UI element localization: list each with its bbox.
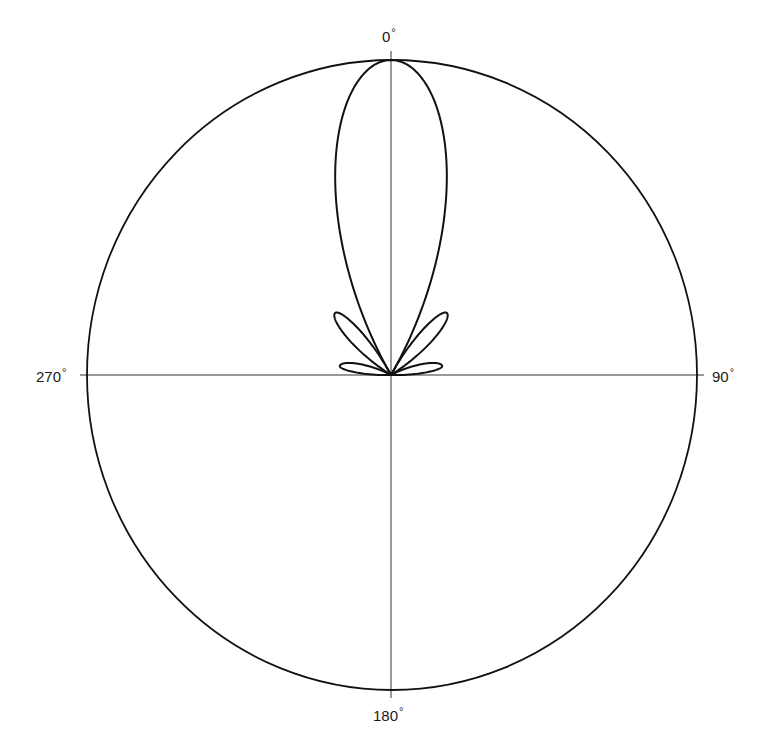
label-180-degrees: 180° [373, 705, 403, 724]
label-90-degrees: 90° [712, 366, 734, 385]
label-0-degrees: 0° [382, 26, 396, 45]
polar-radiation-pattern [0, 0, 768, 748]
label-270-degrees: 270° [36, 366, 66, 385]
